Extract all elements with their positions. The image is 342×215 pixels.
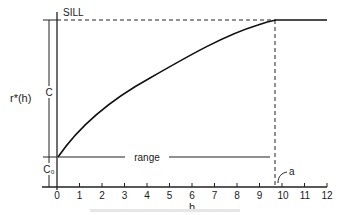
x-tick-label: 12 [321,190,333,201]
x-tick-label: 5 [167,190,173,201]
c0-label: C₀ [43,164,54,175]
x-tick-label: 6 [189,190,195,201]
x-tick-label: 3 [122,190,128,201]
x-tick-label: 4 [144,190,150,201]
x-tick-label: 7 [212,190,218,201]
x-tick-label: 11 [300,190,311,201]
x-tick-label: 1 [77,190,83,201]
a-arrow [278,172,287,183]
variogram-chart: 0 1 2 3 4 5 6 7 8 9 10 11 12 h SILL C C₀… [0,0,342,215]
x-tick-label: 9 [257,190,263,201]
x-tick-label: 10 [277,190,289,201]
sill-label: SILL [63,7,84,18]
y-axis-label: r*(h) [10,92,31,104]
x-tick-label: 2 [99,190,105,201]
range-label: range [134,152,160,163]
c-label: C [45,87,52,98]
caption-faint [90,209,240,212]
x-tick-label: 8 [234,190,240,201]
variogram-curve [58,20,327,157]
x-tick-label: 0 [54,190,60,201]
a-label: a [289,166,295,177]
